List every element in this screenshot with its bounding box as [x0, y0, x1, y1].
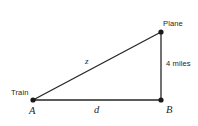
vertex-dot-a: [30, 97, 35, 102]
label-hypotenuse-side: z: [85, 57, 89, 66]
label-vertex-b: B: [166, 105, 172, 116]
label-vertical-side-length: 4 miles: [166, 60, 191, 68]
diagram-canvas: Train Plane 4 miles A B d z: [0, 0, 198, 126]
label-plane: Plane: [163, 20, 183, 28]
vertex-dot-plane: [158, 29, 163, 34]
label-base-side: d: [94, 105, 99, 116]
vertex-dot-b: [158, 97, 163, 102]
label-train: Train: [11, 89, 29, 97]
hypotenuse-line: [33, 32, 161, 100]
label-vertex-a: A: [29, 106, 35, 117]
